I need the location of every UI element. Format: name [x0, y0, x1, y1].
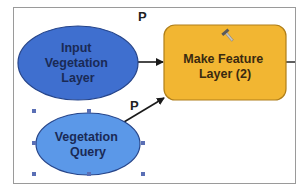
node-label-line: Query: [70, 145, 106, 159]
selection-handle[interactable]: [141, 172, 145, 176]
selection-handle[interactable]: [87, 109, 91, 113]
parameter-marker: P: [130, 98, 139, 113]
model-diagram: Input Vegetation Layer P Make Feature La…: [0, 0, 304, 191]
node-make-feature-layer[interactable]: Make Feature Layer (2): [164, 25, 286, 100]
node-label-line: Vegetation: [45, 56, 108, 70]
node-label-line: Make Feature: [183, 52, 263, 66]
selection-handle[interactable]: [32, 172, 36, 176]
selection-handle[interactable]: [87, 172, 91, 176]
node-input-vegetation-layer[interactable]: Input Vegetation Layer: [18, 26, 138, 100]
node-shape: [36, 113, 140, 175]
parameter-marker: P: [138, 9, 147, 24]
node-vegetation-query[interactable]: Vegetation Query: [36, 113, 140, 175]
selection-handle[interactable]: [32, 141, 36, 145]
node-label-line: Input: [61, 41, 92, 55]
selection-handle[interactable]: [141, 141, 145, 145]
node-label-line: Layer: [61, 71, 94, 85]
node-label-line: Layer (2): [199, 67, 251, 81]
node-label-line: Vegetation: [55, 130, 118, 144]
selection-handle[interactable]: [32, 109, 36, 113]
